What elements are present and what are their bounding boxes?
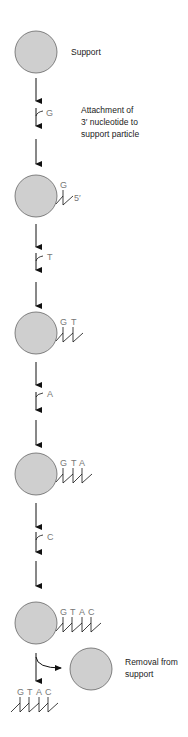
svg-text:G: G xyxy=(46,108,53,118)
svg-text:C: C xyxy=(88,607,95,617)
svg-text:A: A xyxy=(47,389,53,399)
attachment-label-line1: Attachment of xyxy=(81,105,134,115)
svg-text:G: G xyxy=(60,317,67,327)
incoming-nucleotide-t: T xyxy=(36,252,53,270)
support-bead xyxy=(15,31,57,73)
bead-with-gtac: G T A C xyxy=(15,602,101,644)
removal-label-line1: Removal from xyxy=(125,657,178,667)
svg-text:C: C xyxy=(47,532,54,542)
free-oligonucleotide-gtac: G T A C xyxy=(11,687,58,712)
svg-text:A: A xyxy=(79,458,85,468)
incoming-nucleotide-g: G xyxy=(36,108,53,126)
svg-text:G: G xyxy=(60,607,67,617)
attachment-label-line2: 3′ nucleotide to xyxy=(81,117,138,127)
svg-text:G: G xyxy=(60,458,67,468)
svg-text:T: T xyxy=(70,607,76,617)
svg-text:T: T xyxy=(71,458,77,468)
incoming-nucleotide-c: C xyxy=(36,532,54,552)
svg-text:T: T xyxy=(27,687,33,697)
svg-text:T: T xyxy=(47,252,53,262)
arrow-right-curved-icon xyxy=(36,657,61,668)
bead-with-gta: G T A xyxy=(15,453,92,495)
five-prime-label: 5′ xyxy=(74,193,81,203)
removal-label-line2: support xyxy=(125,669,154,679)
svg-text:G: G xyxy=(60,180,67,190)
attachment-label-line3: support particle xyxy=(81,129,139,139)
incoming-nucleotide-a: A xyxy=(36,389,53,410)
support-label: Support xyxy=(71,47,101,57)
svg-text:T: T xyxy=(71,317,77,327)
bead-with-gt: G T xyxy=(15,312,83,354)
released-support-bead xyxy=(70,648,112,690)
bead-with-g: G 5′ xyxy=(15,175,81,217)
svg-text:C: C xyxy=(45,687,52,697)
svg-text:A: A xyxy=(36,687,42,697)
solid-phase-synthesis-diagram: Support G Attachment of 3′ nucleotide to… xyxy=(0,0,188,737)
svg-text:A: A xyxy=(79,607,85,617)
svg-text:G: G xyxy=(17,687,24,697)
